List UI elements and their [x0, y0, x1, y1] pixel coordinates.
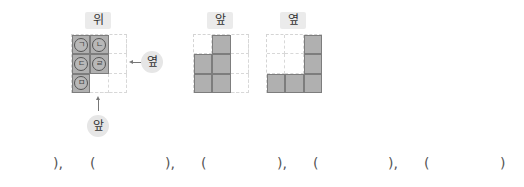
- side-view-grid: [266, 34, 322, 93]
- top-cell-r3c3: [109, 74, 127, 93]
- front-pointer-label: 앞: [87, 115, 109, 137]
- top-view-grid: ㄱ ㄴ ㄷ ㄹ ㅁ: [71, 34, 127, 93]
- answer-close-3: ),: [277, 154, 287, 172]
- top-cell-r3c2: [90, 74, 108, 93]
- top-cell-r1c3: [109, 35, 127, 54]
- side-view-label: 옆: [280, 12, 306, 29]
- answer-blank-mieum[interactable]: [432, 154, 496, 172]
- top-cell-r1c2: ㄴ: [90, 35, 108, 54]
- front-cell-r1c2: [212, 35, 230, 54]
- answer-blank-nieun[interactable]: [98, 154, 162, 172]
- front-view-grid: [193, 34, 249, 93]
- answer-open-2: (: [201, 154, 206, 172]
- front-cell-r1c1: [194, 35, 212, 54]
- mark-digeut: ㄷ: [74, 57, 88, 71]
- side-cell-r1c1: [267, 35, 285, 54]
- side-cell-r3c1: [267, 74, 285, 93]
- answer-close-1: ),: [53, 154, 63, 172]
- mark-giyeok: ㄱ: [74, 38, 88, 52]
- answer-close-2: ),: [165, 154, 175, 172]
- front-cell-r2c3: [231, 54, 249, 73]
- answer-close-4: ),: [388, 154, 398, 172]
- side-cell-r3c3: [304, 74, 322, 93]
- front-cell-r1c3: [231, 35, 249, 54]
- top-cell-r2c3: [109, 54, 127, 73]
- front-cell-r2c1: [194, 54, 212, 73]
- front-view-label: 앞: [207, 12, 233, 29]
- side-cell-r1c3: [304, 35, 322, 54]
- top-cell-r2c1: ㄷ: [72, 54, 90, 73]
- side-pointer-label: 옆: [141, 51, 163, 73]
- front-cell-r3c2: [212, 74, 230, 93]
- side-cell-r2c3: [304, 54, 322, 73]
- answer-blank-digeut[interactable]: [209, 154, 273, 172]
- side-cell-r1c2: [285, 35, 303, 54]
- mark-mieum: ㅁ: [74, 76, 88, 90]
- side-cell-r3c2: [285, 74, 303, 93]
- front-arrow-icon: [98, 99, 99, 111]
- answer-open-1: (: [90, 154, 95, 172]
- mark-nieun: ㄴ: [92, 38, 106, 52]
- answer-open-4: (: [424, 154, 429, 172]
- mark-rieul: ㄹ: [92, 57, 106, 71]
- side-cell-r2c2: [285, 54, 303, 73]
- answer-open-3: (: [313, 154, 318, 172]
- top-view-label: 위: [85, 12, 111, 29]
- top-cell-r1c1: ㄱ: [72, 35, 90, 54]
- front-cell-r3c3: [231, 74, 249, 93]
- top-cell-r2c2: ㄹ: [90, 54, 108, 73]
- front-cell-r2c2: [212, 54, 230, 73]
- side-cell-r2c1: [267, 54, 285, 73]
- top-cell-r3c1: ㅁ: [72, 74, 90, 93]
- answer-final-close: ): [500, 154, 505, 172]
- answer-blank-rieul[interactable]: [321, 154, 385, 172]
- front-cell-r3c1: [194, 74, 212, 93]
